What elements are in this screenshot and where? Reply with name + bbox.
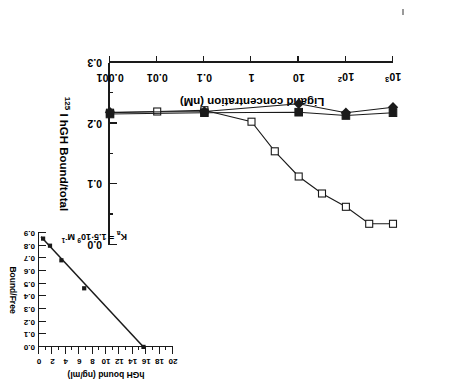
inset-series (19, 221, 189, 361)
inset-x-axis-title: hGH bound (ng/ml) (68, 370, 145, 380)
stray-print-mark (403, 9, 405, 15)
series-open-squares-line (110, 110, 393, 224)
series-open-squares-markers (107, 107, 397, 228)
inset-fit-line (41, 237, 144, 347)
inset-scatchard-plot: 0 2 4 6 8 10 12 14 16 18 20 0.0 0.1 0.2 … (19, 221, 189, 361)
series-filled-diamonds-line (110, 104, 393, 113)
inset-y-axis-title: Bound/Free (8, 266, 18, 313)
